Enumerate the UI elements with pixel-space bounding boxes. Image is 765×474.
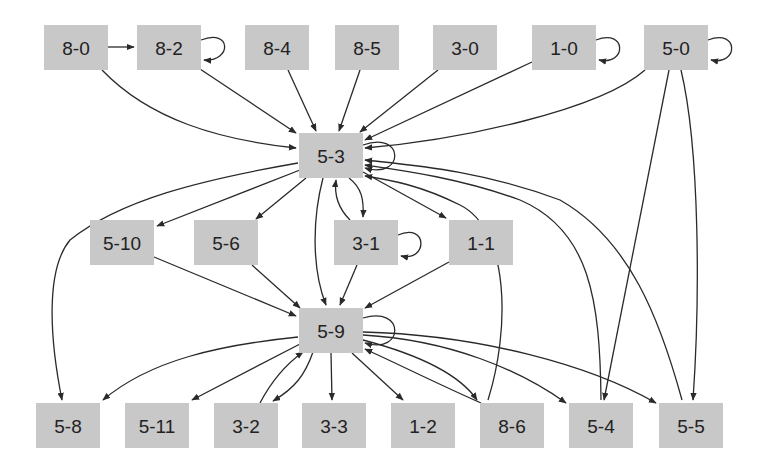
node-label: 3-3 bbox=[320, 416, 347, 437]
edge-8-5-to-5-3 bbox=[339, 70, 360, 131]
edge-5-9-to-5-4 bbox=[363, 335, 566, 403]
node-label: 5-6 bbox=[212, 233, 239, 254]
edge-5-3-to-1-1 bbox=[363, 172, 446, 218]
edge-5-9-to-1-2 bbox=[352, 353, 403, 400]
edge-1-1-to-5-9 bbox=[365, 262, 449, 308]
node-1-0: 1-0 bbox=[532, 25, 596, 70]
edge-1-0-to-1-0 bbox=[596, 38, 620, 61]
edge-3-1-to-5-9 bbox=[340, 265, 357, 305]
edge-5-0-to-5-5 bbox=[681, 70, 697, 400]
node-label: 5-5 bbox=[677, 416, 704, 437]
edge-8-4-to-5-3 bbox=[288, 70, 316, 131]
edge-5-9-to-5-8 bbox=[103, 337, 298, 400]
node-label: 1-1 bbox=[467, 233, 494, 254]
edge-5-3-to-5-9 bbox=[315, 178, 326, 305]
edge-5-9-to-5-11 bbox=[192, 344, 300, 400]
node-label: 5-3 bbox=[317, 146, 344, 167]
node-5-11: 5-11 bbox=[125, 403, 189, 448]
node-label: 3-0 bbox=[451, 38, 478, 59]
edge-5-6-to-5-9 bbox=[252, 265, 300, 308]
node-5-6: 5-6 bbox=[194, 220, 258, 265]
node-label: 8-4 bbox=[263, 38, 291, 59]
node-label: 5-9 bbox=[317, 321, 344, 342]
edge-5-0-to-5-4 bbox=[604, 70, 669, 400]
node-5-8: 5-8 bbox=[36, 403, 100, 448]
node-5-9: 5-9 bbox=[299, 308, 363, 353]
node-label: 1-2 bbox=[409, 416, 436, 437]
node-5-3: 5-3 bbox=[299, 133, 363, 178]
node-label: 5-4 bbox=[587, 416, 615, 437]
graph-canvas: 8-08-28-48-53-01-05-05-35-105-63-11-15-9… bbox=[0, 0, 765, 474]
edge-5-0-to-5-3 bbox=[365, 70, 645, 148]
edge-5-9-to-5-9 bbox=[363, 316, 395, 345]
edge-3-1-to-3-1 bbox=[398, 232, 421, 256]
edge-1-0-to-5-3 bbox=[365, 62, 532, 140]
edge-3-1-to-5-3 bbox=[336, 180, 350, 220]
node-3-1: 3-1 bbox=[334, 220, 398, 265]
node-label: 5-11 bbox=[139, 416, 176, 437]
node-5-10: 5-10 bbox=[90, 220, 154, 265]
edge-5-10-to-5-9 bbox=[154, 257, 296, 316]
node-8-4: 8-4 bbox=[245, 25, 309, 70]
node-label: 5-10 bbox=[103, 233, 141, 254]
edge-8-2-to-8-2 bbox=[201, 37, 225, 60]
edge-5-9-to-3-3 bbox=[331, 353, 332, 400]
node-1-1: 1-1 bbox=[449, 220, 513, 265]
node-3-2: 3-2 bbox=[214, 403, 278, 448]
edge-5-9-to-5-5 bbox=[363, 332, 656, 403]
node-1-2: 1-2 bbox=[391, 403, 455, 448]
node-label: 1-0 bbox=[550, 38, 577, 59]
node-3-3: 3-3 bbox=[302, 403, 366, 448]
node-label: 8-0 bbox=[62, 38, 89, 59]
node-8-5: 8-5 bbox=[335, 25, 399, 70]
edge-8-6-to-5-3 bbox=[365, 176, 502, 400]
node-5-4: 5-4 bbox=[569, 403, 633, 448]
node-5-0: 5-0 bbox=[644, 25, 708, 70]
edge-8-2-to-5-3 bbox=[200, 69, 296, 133]
node-8-6: 8-6 bbox=[480, 403, 544, 448]
edge-5-9-to-8-6 bbox=[363, 340, 477, 400]
node-label: 8-2 bbox=[155, 38, 182, 59]
edge-5-0-to-5-0 bbox=[708, 38, 732, 61]
node-label: 8-6 bbox=[498, 416, 525, 437]
node-label: 8-5 bbox=[353, 38, 380, 59]
node-8-2: 8-2 bbox=[137, 25, 201, 70]
edge-8-6-to-5-9 bbox=[365, 349, 481, 403]
node-label: 3-2 bbox=[232, 416, 259, 437]
node-8-0: 8-0 bbox=[44, 25, 108, 70]
edge-5-3-to-5-10 bbox=[157, 170, 300, 226]
node-label: 3-1 bbox=[352, 233, 379, 254]
node-label: 5-0 bbox=[662, 38, 689, 59]
edge-8-0-to-5-3 bbox=[102, 70, 296, 148]
edge-5-3-to-3-1 bbox=[349, 178, 363, 217]
edge-5-5-to-5-3 bbox=[365, 160, 682, 400]
edge-3-0-to-5-3 bbox=[360, 70, 438, 132]
node-label: 5-8 bbox=[54, 416, 81, 437]
node-3-0: 3-0 bbox=[433, 25, 497, 70]
node-5-5: 5-5 bbox=[659, 403, 723, 448]
